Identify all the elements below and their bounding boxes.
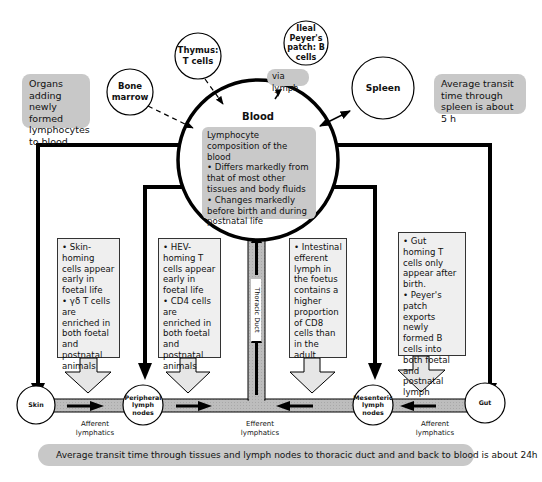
thoracic-duct-label: Thoracic Duct [251, 279, 261, 341]
blood-title: Blood [238, 111, 278, 122]
blood-composition-box: Lymphocyte composition of the blood • Di… [202, 127, 316, 219]
afferent-lymphatics-right: Afferent lymphatics [410, 420, 460, 438]
spleen-label: Spleen [356, 80, 410, 96]
organs-note: Organs adding newly formed lymphocytes t… [22, 74, 90, 128]
efferent-lymphatics: Efferent lymphatics [235, 420, 285, 438]
peyers-patch-label: Ileal Peyer's patch: B cells [286, 22, 326, 64]
afferent-lymphatics-left: Afferent lymphatics [70, 420, 120, 438]
via-lymph-label: via lymph [267, 69, 309, 86]
spleen-transit-note: Average transit time through spleen is a… [434, 74, 526, 114]
blood-bullet-1: • Differs markedly from that of most oth… [207, 162, 311, 194]
overall-transit-note: Average transit time through tissues and… [38, 444, 474, 466]
peripheral-label: Peripheral lymph nodes [125, 392, 161, 418]
thymus-label: Thymus: T cells [176, 40, 220, 72]
peripheral-note: • HEV-homing T cells appear early in foe… [158, 238, 221, 358]
gut-label: Gut [468, 398, 502, 408]
gut-note: • Gut homing T cells only appear after b… [398, 232, 466, 356]
mesenteric-label: Mesenteric lymph nodes [354, 392, 392, 418]
skin-label: Skin [19, 400, 53, 410]
blood-bullet-2: • Changes markedly before birth and duri… [207, 195, 311, 227]
skin-note: • Skin-homing cells appear early in foet… [57, 238, 120, 358]
blood-heading: Lymphocyte composition of the blood [207, 130, 311, 162]
bone-marrow-label: Bone marrow [108, 75, 152, 109]
intestinal-note: • Intestinal efferent lymph in the foetu… [289, 238, 347, 358]
